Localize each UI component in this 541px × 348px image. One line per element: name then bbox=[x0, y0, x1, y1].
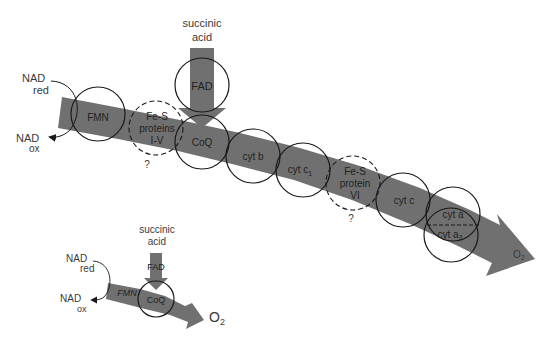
nad-ox-sub: ox bbox=[29, 143, 40, 154]
fes6-label-line3: VI bbox=[350, 190, 359, 201]
succinic-label-line1: succinic bbox=[182, 17, 222, 29]
inset-nad-red-sub: red bbox=[80, 263, 94, 274]
fes6-uncertain-mark: ? bbox=[348, 213, 354, 224]
coq-label: CoQ bbox=[192, 137, 213, 148]
inset-nad-ox-sub: ox bbox=[77, 304, 87, 314]
fes1-uncertain-mark: ? bbox=[144, 159, 150, 170]
cyt-b-label: cyt b bbox=[242, 151, 264, 162]
inset-o2-output-label: O2 bbox=[209, 309, 225, 327]
electron-transport-chain-diagram: NAD red NAD ox succinic acid FAD FMN Fe-… bbox=[0, 0, 541, 348]
inset-coq-label: CoQ bbox=[147, 295, 166, 305]
fes1-label-line1: Fe-S bbox=[146, 111, 168, 122]
fmn-label: FMN bbox=[87, 112, 109, 123]
inset-diagram: succinic acid FAD NAD red NAD ox FMN CoQ… bbox=[60, 224, 225, 329]
cyt-a-label: cyt a bbox=[442, 209, 464, 220]
fes6-label-line2: protein bbox=[340, 178, 371, 189]
fes6-label-line1: Fe-S bbox=[344, 166, 366, 177]
nad-red-sub: red bbox=[33, 84, 49, 96]
nad-red-label: NAD bbox=[22, 72, 45, 84]
inset-fad-label: FAD bbox=[147, 262, 165, 272]
fad-label: FAD bbox=[191, 80, 212, 92]
inset-nad-ox-label: NAD bbox=[60, 293, 81, 304]
inset-succinic-label-line1: succinic bbox=[139, 224, 175, 235]
fes1-label-line2: proteins bbox=[139, 123, 175, 134]
fes1-label-line3: I-V bbox=[151, 135, 164, 146]
main-diagram: NAD red NAD ox succinic acid FAD FMN Fe-… bbox=[16, 17, 535, 276]
cyt-c-label: cyt c bbox=[394, 195, 415, 206]
inset-fmn-label: FMN bbox=[117, 288, 137, 298]
inset-succinic-label-line2: acid bbox=[148, 236, 166, 247]
succinic-label-line2: acid bbox=[192, 31, 212, 43]
